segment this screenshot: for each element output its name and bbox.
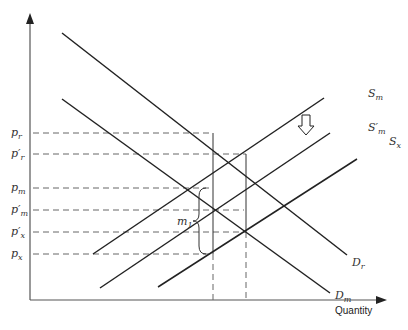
label-sx: Sx <box>389 135 402 150</box>
label-pm-prime: p′m <box>11 203 29 218</box>
label-px: px <box>11 247 23 262</box>
x-axis-arrow-icon <box>376 296 387 304</box>
label-dr: Dr <box>351 256 366 271</box>
label-pr-prime: p′r <box>11 147 26 162</box>
label-sm-prime: S′m <box>368 121 386 136</box>
supply-demand-chart: m1 pr p′r pm p′m p′x px Sm S′m Sx Dr Dm … <box>0 0 408 330</box>
demand-curve-dr <box>62 33 347 255</box>
label-sm: Sm <box>368 87 384 102</box>
supply-curve-sm <box>93 98 324 254</box>
y-axis-arrow-icon <box>26 13 34 24</box>
label-pm: pm <box>11 181 26 196</box>
demand-curve-dm <box>62 99 330 293</box>
label-dm: Dm <box>334 289 352 304</box>
shift-down-arrow-icon <box>298 115 314 135</box>
m1-label: m1 <box>177 215 193 230</box>
label-px-prime: p′x <box>11 225 26 240</box>
label-pr: pr <box>11 126 23 141</box>
x-axis-label: Quantity <box>335 305 372 316</box>
price-guides <box>33 133 246 300</box>
